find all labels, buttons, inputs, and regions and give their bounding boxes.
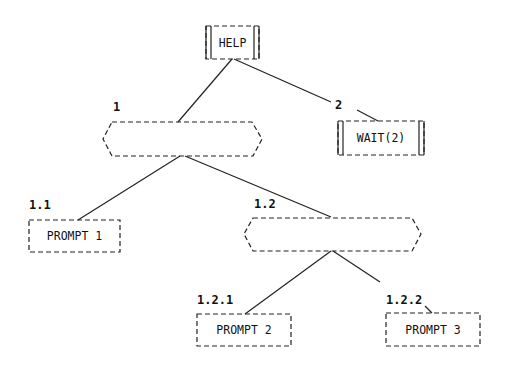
node-prompt2: PROMPT 2 1.2.1: [197, 293, 291, 346]
wait-label: WAIT(2): [357, 131, 405, 145]
number-1-2-2: 1.2.2: [386, 293, 422, 307]
edge-seq12-prompt3-upper: [333, 251, 380, 282]
edge-help-wait-lower: [357, 110, 378, 121]
edge-seq1-prompt1: [78, 156, 180, 220]
prompt1-label: PROMPT 1: [47, 229, 102, 243]
node-seq12: 1.2: [244, 197, 421, 251]
help-label: HELP: [219, 36, 247, 50]
node-wait: WAIT(2) 2: [335, 98, 424, 155]
number-1: 1: [113, 100, 120, 114]
node-help: HELP: [206, 26, 259, 59]
node-prompt1: PROMPT 1 1.1: [29, 198, 120, 252]
edge-help-wait-upper: [234, 59, 331, 102]
node-prompt3: PROMPT 3 1.2.2: [386, 293, 480, 346]
edge-seq12-prompt2: [245, 251, 331, 314]
edge-seq12-prompt3-lower: [425, 306, 432, 313]
node-seq1: 1: [103, 100, 262, 156]
number-1-2: 1.2: [254, 197, 276, 211]
prompt2-label: PROMPT 2: [216, 323, 271, 337]
number-1-2-1: 1.2.1: [197, 293, 233, 307]
prompt3-label: PROMPT 3: [405, 323, 460, 337]
edges: [78, 59, 432, 314]
number-1-1: 1.1: [29, 198, 51, 212]
number-2: 2: [335, 98, 342, 112]
tree-diagram: HELP 1 WAIT(2) 2 PROMPT 1 1.1 1.2 PROMPT…: [0, 0, 507, 369]
edge-help-seq1: [178, 59, 232, 122]
